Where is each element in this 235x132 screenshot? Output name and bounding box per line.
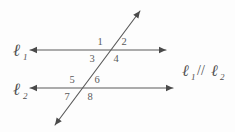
parallel-operator-icon: //: [197, 63, 205, 78]
line-l2-left-arrowhead: [30, 85, 37, 91]
transversal-segment: [55, 11, 140, 125]
relation-right-base: ℓ: [211, 62, 218, 79]
line-name-l1-subscript: 1: [23, 52, 28, 62]
line-l1-right-arrowhead: [159, 47, 166, 53]
angle-label-3: 3: [89, 53, 94, 64]
relation-left-base: ℓ: [182, 62, 189, 79]
geometry-diagram: 1 2 3 4 5 6 7 8 ℓ 1 ℓ 2 ℓ 1 // ℓ 2: [0, 0, 235, 132]
line-name-l1-base: ℓ: [13, 41, 20, 60]
angle-label-7: 7: [64, 91, 69, 102]
relation-right-subscript: 2: [220, 72, 225, 82]
relation-left-subscript: 1: [191, 72, 196, 82]
line-l2-right-arrowhead: [166, 85, 173, 91]
angle-label-6: 6: [94, 74, 99, 85]
line-l1-left-arrowhead: [30, 47, 37, 53]
line-l1: [30, 47, 166, 53]
line-name-l2-base: ℓ: [13, 80, 20, 99]
transversal-bottom-arrowhead: [55, 117, 62, 125]
parallel-relation-note: ℓ 1 // ℓ 2: [182, 62, 225, 82]
angle-label-4: 4: [113, 53, 119, 64]
line-l2: [30, 85, 173, 91]
transversal-line: [55, 11, 140, 125]
angle-label-8: 8: [87, 91, 92, 102]
transversal-top-arrowhead: [133, 11, 140, 19]
angle-label-2: 2: [121, 36, 126, 47]
parallel-lines-transversal-svg: 1 2 3 4 5 6 7 8 ℓ 1 ℓ 2 ℓ 1 // ℓ 2: [0, 0, 235, 132]
line-name-label-l1: ℓ 1: [13, 41, 28, 62]
angle-label-1: 1: [97, 36, 102, 47]
line-name-label-l2: ℓ 2: [13, 80, 28, 101]
line-name-l2-subscript: 2: [23, 91, 28, 101]
angle-label-5: 5: [69, 74, 74, 85]
